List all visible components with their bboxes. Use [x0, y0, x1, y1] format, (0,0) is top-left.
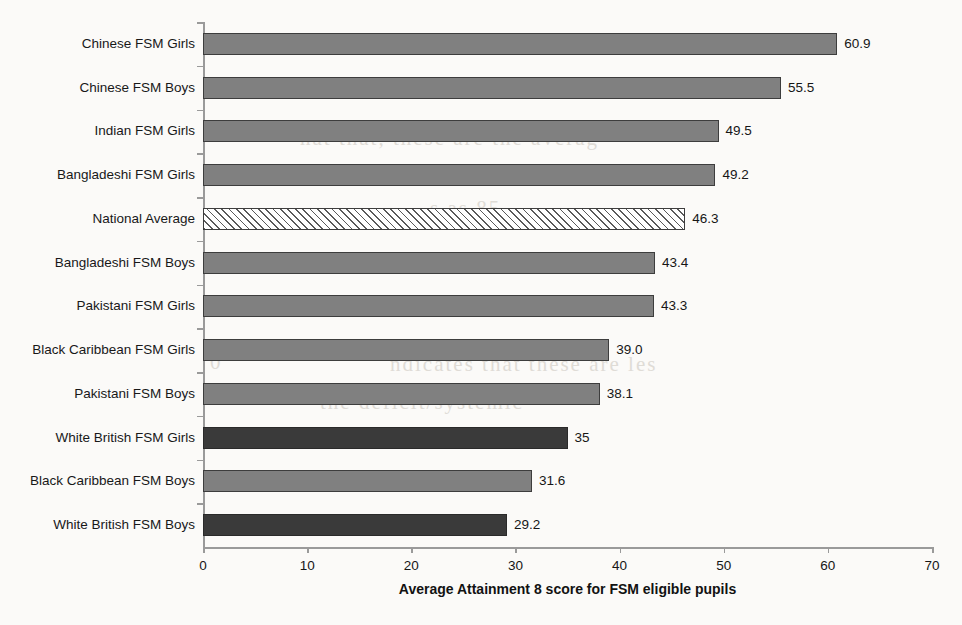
bar-value-label: 55.5 — [788, 81, 814, 95]
x-axis-tick-label: 50 — [716, 559, 731, 573]
bar-white-british-fsm-boys — [203, 514, 507, 536]
bar-value-label: 29.2 — [514, 518, 540, 532]
category-label: Pakistani FSM Boys — [0, 387, 195, 401]
category-label: National Average — [0, 212, 195, 226]
x-axis-tick — [411, 547, 413, 553]
x-axis-tick-label: 70 — [924, 559, 939, 573]
x-axis-title: Average Attainment 8 score for FSM eligi… — [399, 581, 736, 597]
y-axis-tick — [197, 22, 203, 24]
x-axis-tick — [620, 547, 622, 553]
bar-national-average — [203, 208, 685, 230]
x-axis-tick-label: 40 — [612, 559, 627, 573]
x-axis-tick-label: 20 — [404, 559, 419, 573]
y-axis-tick — [197, 241, 203, 243]
bar-black-caribbean-fsm-girls — [203, 339, 609, 361]
category-label: White British FSM Boys — [0, 518, 195, 532]
y-axis-tick — [197, 416, 203, 418]
x-axis-tick — [828, 547, 830, 553]
y-axis-tick — [197, 197, 203, 199]
bar-value-label: 43.3 — [661, 299, 687, 313]
bar-chart: 60.955.549.549.246.343.443.339.038.13531… — [0, 0, 962, 625]
x-axis-tick-label: 60 — [820, 559, 835, 573]
y-axis-tick — [197, 328, 203, 330]
category-label-row: Black Caribbean FSM Girls — [0, 343, 195, 357]
category-label-row: Chinese FSM Boys — [0, 81, 195, 95]
bar-value-label: 38.1 — [607, 387, 633, 401]
category-label: Pakistani FSM Girls — [0, 299, 195, 313]
bar-chinese-fsm-girls — [203, 33, 837, 55]
y-axis-tick — [197, 285, 203, 287]
bar-chinese-fsm-boys — [203, 77, 781, 99]
bar-value-label: 60.9 — [844, 37, 870, 51]
bar-value-label: 49.5 — [726, 124, 752, 138]
bar-black-caribbean-fsm-boys — [203, 470, 532, 492]
y-axis-tick — [197, 503, 203, 505]
category-label: Indian FSM Girls — [0, 124, 195, 138]
category-label-row: White British FSM Boys — [0, 518, 195, 532]
x-axis-tick — [203, 547, 205, 553]
category-label-row: Pakistani FSM Boys — [0, 387, 195, 401]
y-axis-tick — [197, 372, 203, 374]
bar-value-label: 46.3 — [692, 212, 718, 226]
category-label-row: Pakistani FSM Girls — [0, 299, 195, 313]
y-axis-tick — [197, 153, 203, 155]
category-label-row: Indian FSM Girls — [0, 124, 195, 138]
y-axis-tick — [197, 66, 203, 68]
x-axis-tick-label: 10 — [300, 559, 315, 573]
x-axis-tick-label: 0 — [199, 559, 207, 573]
x-axis-line — [203, 547, 932, 549]
category-label-row: National Average — [0, 212, 195, 226]
x-axis-tick-label: 30 — [508, 559, 523, 573]
category-label: Bangladeshi FSM Boys — [0, 256, 195, 270]
category-label-row: White British FSM Girls — [0, 431, 195, 445]
category-label: White British FSM Girls — [0, 431, 195, 445]
x-axis-tick — [515, 547, 517, 553]
y-axis-tick — [197, 460, 203, 462]
category-label: Bangladeshi FSM Girls — [0, 168, 195, 182]
x-axis-tick — [932, 547, 934, 553]
bar-white-british-fsm-girls — [203, 427, 568, 449]
y-axis-line — [203, 22, 205, 547]
bar-indian-fsm-girls — [203, 120, 719, 142]
category-label-row: Chinese FSM Girls — [0, 37, 195, 51]
bar-bangladeshi-fsm-boys — [203, 252, 655, 274]
category-label: Black Caribbean FSM Boys — [0, 474, 195, 488]
bar-value-label: 49.2 — [722, 168, 748, 182]
category-label: Black Caribbean FSM Girls — [0, 343, 195, 357]
bar-value-label: 31.6 — [539, 474, 565, 488]
bar-bangladeshi-fsm-girls — [203, 164, 715, 186]
bar-value-label: 43.4 — [662, 256, 688, 270]
category-label-row: Bangladeshi FSM Girls — [0, 168, 195, 182]
x-axis-tick — [724, 547, 726, 553]
category-label: Chinese FSM Boys — [0, 81, 195, 95]
y-axis-tick — [197, 110, 203, 112]
category-label-row: Black Caribbean FSM Boys — [0, 474, 195, 488]
category-label-row: Bangladeshi FSM Boys — [0, 256, 195, 270]
bar-value-label: 39.0 — [616, 343, 642, 357]
bar-pakistani-fsm-girls — [203, 295, 654, 317]
bar-pakistani-fsm-boys — [203, 383, 600, 405]
bar-value-label: 35 — [575, 431, 590, 445]
x-axis-tick — [307, 547, 309, 553]
category-label: Chinese FSM Girls — [0, 37, 195, 51]
